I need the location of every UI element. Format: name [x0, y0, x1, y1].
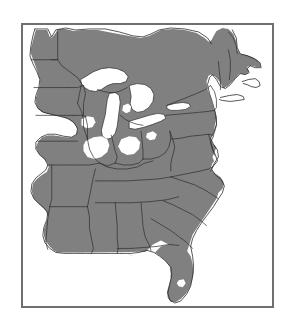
distribution-range-map [22, 24, 273, 307]
screenshot-root [0, 0, 288, 328]
map-frame [21, 23, 274, 308]
